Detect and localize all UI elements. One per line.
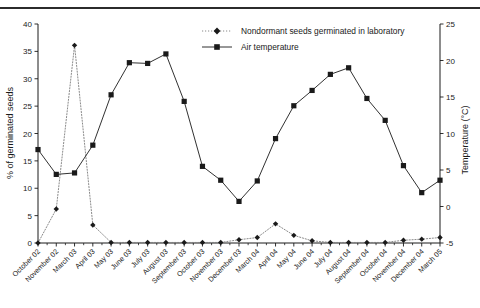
legend-marker-temperature (214, 44, 220, 50)
left-tick-label: 5 (28, 212, 33, 221)
germination-series-line (38, 45, 440, 243)
data-point-marker (54, 206, 59, 211)
legend: Nondormant seeds germinated in laborator… (202, 26, 405, 52)
x-category-label: June 03 (109, 247, 133, 271)
left-tick-label: 25 (23, 102, 32, 111)
data-point-marker (383, 118, 388, 123)
axes-group (38, 24, 440, 243)
data-point-marker (419, 236, 424, 241)
data-point-marker (35, 240, 40, 245)
data-point-marker (163, 51, 168, 56)
data-point-marker (328, 72, 333, 77)
y-axis-title: % of germinated seeds (5, 86, 15, 179)
data-point-marker (328, 240, 333, 245)
legend-label-temperature: Air temperature (241, 42, 299, 52)
data-point-marker (35, 147, 40, 152)
left-tick-label: 10 (23, 184, 32, 193)
data-point-marker (236, 237, 241, 242)
data-point-marker (401, 163, 406, 168)
left-tick-label: 0 (28, 239, 33, 248)
left-tick-label: 30 (23, 75, 32, 84)
x-category-label: April 03 (73, 247, 97, 271)
left-tick-label: 20 (23, 130, 32, 139)
x-axis-category-labels: October 02November 02March 03April 03May… (10, 247, 444, 285)
right-tick-label: 20 (446, 57, 455, 66)
data-point-marker (54, 172, 59, 177)
right-tick-label: 0 (446, 203, 451, 212)
data-point-marker (255, 235, 260, 240)
right-tick-label: 5 (446, 166, 451, 175)
right-tick-label: 25 (446, 20, 455, 29)
data-point-marker (255, 178, 260, 183)
data-point-marker (181, 240, 186, 245)
data-point-marker (382, 240, 387, 245)
legend-label-germination: Nondormant seeds germinated in laborator… (241, 26, 405, 36)
data-point-marker (419, 190, 424, 195)
data-point-marker (291, 233, 296, 238)
data-point-marker (127, 60, 132, 65)
y2-axis-title: Temperature (°C) (460, 105, 470, 174)
figure-container: 0510152025303540 -50510152025 October 02… (0, 0, 480, 308)
x-category-label: April 04 (256, 247, 280, 271)
data-point-marker (273, 136, 278, 141)
data-point-marker (309, 88, 314, 93)
data-point-marker (200, 240, 205, 245)
right-axis-tick-labels: -50510152025 (446, 20, 455, 248)
temperature-series-line (38, 54, 440, 201)
chart-canvas: 0510152025303540 -50510152025 October 02… (0, 0, 480, 308)
data-point-marker (145, 240, 150, 245)
germination-series-markers (35, 43, 442, 246)
right-axis-ticks (440, 24, 444, 243)
series-group (35, 43, 442, 246)
data-point-marker (182, 99, 187, 104)
data-point-marker (108, 92, 113, 97)
legend-entry-germination: Nondormant seeds germinated in laborator… (202, 26, 405, 36)
data-point-marker (218, 240, 223, 245)
left-tick-label: 35 (23, 47, 32, 56)
data-point-marker (437, 178, 442, 183)
data-point-marker (346, 240, 351, 245)
right-tick-label: 15 (446, 93, 455, 102)
left-tick-label: 40 (23, 20, 32, 29)
temperature-series-markers (35, 51, 442, 204)
data-point-marker (163, 240, 168, 245)
left-axis-ticks (35, 24, 39, 243)
legend-marker-germination (214, 28, 221, 35)
data-point-marker (437, 235, 442, 240)
right-tick-label: -5 (446, 239, 454, 248)
data-point-marker (236, 199, 241, 204)
data-point-marker (200, 164, 205, 169)
data-point-marker (72, 170, 77, 175)
data-point-marker (72, 43, 77, 48)
data-point-marker (364, 96, 369, 101)
x-category-label: June 04 (292, 247, 316, 271)
data-point-marker (364, 240, 369, 245)
left-axis-tick-labels: 0510152025303540 (23, 20, 32, 248)
legend-entry-temperature: Air temperature (202, 42, 299, 52)
data-point-marker (346, 65, 351, 70)
data-point-marker (218, 178, 223, 183)
data-point-marker (127, 240, 132, 245)
right-tick-label: 10 (446, 130, 455, 139)
x-axis-ticks (38, 243, 440, 247)
data-point-marker (291, 103, 296, 108)
data-point-marker (145, 61, 150, 66)
data-point-marker (273, 221, 278, 226)
data-point-marker (90, 143, 95, 148)
data-point-marker (401, 238, 406, 243)
left-tick-label: 15 (23, 157, 32, 166)
